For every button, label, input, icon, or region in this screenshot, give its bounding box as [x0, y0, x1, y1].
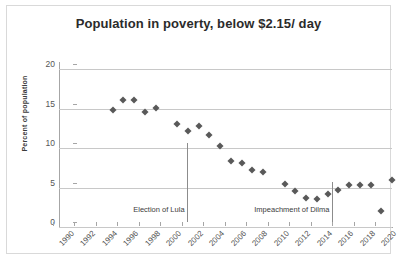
x-axis-tick-mark: [375, 222, 376, 226]
x-axis-tick-mark: [246, 222, 247, 226]
data-point: [249, 167, 256, 174]
data-point: [281, 180, 288, 187]
x-axis-tick-label: 2020: [379, 229, 398, 248]
x-axis-tick-label: 2002: [186, 229, 205, 248]
x-axis-tick-label: 1990: [57, 229, 76, 248]
data-point: [238, 159, 245, 166]
x-axis-tick-mark: [139, 222, 140, 226]
data-point: [206, 132, 213, 139]
x-axis-tick-mark: [117, 222, 118, 226]
event-marker-label: Election of Lula: [133, 205, 184, 214]
data-point: [120, 96, 127, 103]
y-axis-tick-mark: [73, 64, 77, 65]
data-point: [292, 188, 299, 195]
data-point: [195, 122, 202, 129]
x-axis-tick-label: 2006: [229, 229, 248, 248]
data-point: [131, 96, 138, 103]
data-point: [378, 208, 385, 215]
data-point: [227, 157, 234, 164]
y-axis-tick-label: 15: [29, 99, 55, 109]
x-axis-tick-label: 2014: [315, 229, 334, 248]
plot-area: [59, 69, 392, 227]
data-point: [324, 190, 331, 197]
event-marker-line: [332, 182, 333, 222]
data-point: [313, 196, 320, 203]
x-axis-tick-mark: [289, 222, 290, 226]
x-axis-tick-label: 2010: [272, 229, 291, 248]
y-axis-tick-label: 10: [29, 138, 55, 148]
data-point: [184, 127, 191, 134]
x-axis-tick-label: 1996: [122, 229, 141, 248]
x-axis-tick-label: 2012: [294, 229, 313, 248]
data-point: [174, 121, 181, 128]
x-axis-tick-mark: [182, 222, 183, 226]
data-point: [303, 194, 310, 201]
x-axis-tick-mark: [268, 222, 269, 226]
data-point: [260, 169, 267, 176]
gridline: [59, 69, 392, 70]
x-axis-tick-mark: [160, 222, 161, 226]
x-axis-tick-label: 1994: [100, 229, 119, 248]
chart-container: Population in poverty, below $2.15/ day …: [6, 5, 391, 254]
x-axis-tick-label: 1998: [143, 229, 162, 248]
data-point: [388, 177, 395, 184]
gridline: [59, 227, 392, 228]
data-point: [152, 104, 159, 111]
x-axis-tick-mark: [74, 222, 75, 226]
event-marker-line: [187, 143, 188, 222]
x-axis-tick-mark: [96, 222, 97, 226]
x-axis-tick-mark: [311, 222, 312, 226]
event-marker-label: Impeachment of Dilma: [254, 205, 329, 214]
x-axis-tick-mark: [354, 222, 355, 226]
x-axis-tick-label: 2018: [358, 229, 377, 248]
y-axis-tick-group: 05101520: [25, 6, 55, 260]
x-axis-tick-label: 2000: [165, 229, 184, 248]
x-axis-tick-mark: [332, 222, 333, 226]
x-axis-tick-mark: [203, 222, 204, 226]
x-axis-tick-mark: [225, 222, 226, 226]
x-axis-tick-label: 1992: [79, 229, 98, 248]
x-axis-tick-label: 2008: [251, 229, 270, 248]
gridline: [59, 188, 392, 189]
chart-title: Population in poverty, below $2.15/ day: [7, 16, 390, 31]
y-axis-tick-label: 0: [29, 217, 55, 227]
x-axis-tick-mark: [53, 222, 54, 226]
y-axis-tick-label: 5: [29, 178, 55, 188]
gridline: [59, 148, 392, 149]
y-axis-tick-label: 20: [29, 59, 55, 69]
x-axis-tick-label: 2004: [208, 229, 227, 248]
data-point: [141, 109, 148, 116]
x-axis-tick-label: 2016: [336, 229, 355, 248]
